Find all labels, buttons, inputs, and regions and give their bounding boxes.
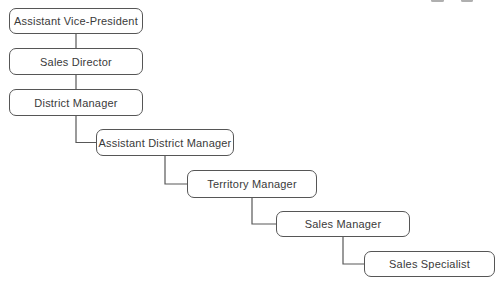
org-chart: Assistant Vice-President Sales Director …	[0, 0, 503, 284]
org-node-assistant-district-manager: Assistant District Manager	[96, 129, 234, 156]
connector-assistant-district-manager-territory-manager	[165, 156, 187, 184]
org-node-territory-manager: Territory Manager	[187, 170, 317, 198]
org-node-district-manager: District Manager	[9, 89, 143, 116]
org-node-sales-director: Sales Director	[9, 48, 143, 75]
connector-sales-manager-sales-specialist	[343, 237, 364, 264]
connector-territory-manager-sales-manager	[252, 198, 276, 224]
org-node-sales-manager: Sales Manager	[276, 211, 410, 237]
org-node-sales-specialist: Sales Specialist	[364, 251, 495, 277]
cropped-text-artifact	[461, 0, 473, 2]
connector-district-manager-assistant-district-manager	[76, 116, 96, 143]
cropped-text-artifact	[431, 0, 444, 2]
org-node-assistant-vice-president: Assistant Vice-President	[9, 8, 143, 34]
connector-lines	[0, 0, 503, 284]
